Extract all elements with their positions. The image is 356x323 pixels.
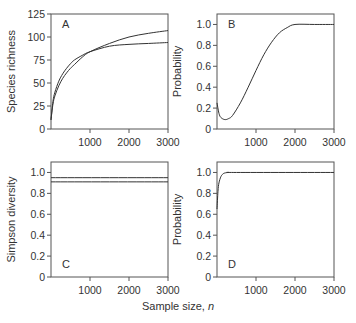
y-tick-label: 100 xyxy=(27,31,45,43)
y-tick-label: 0 xyxy=(205,123,211,135)
y-tick-label: 0.4 xyxy=(196,81,211,93)
y-tick-label: 0.8 xyxy=(196,39,211,51)
x-tick-label: 2000 xyxy=(117,284,141,296)
y-tick-label: 0.2 xyxy=(196,250,211,262)
y-tick-label: 1.0 xyxy=(30,166,45,178)
series-line xyxy=(217,24,334,119)
y-tick-label: 0.4 xyxy=(196,229,211,241)
x-tick-label: 1000 xyxy=(244,284,268,296)
y-tick-label: 0 xyxy=(205,271,211,283)
panel-d: 00.20.40.60.81.0100020003000ProbabilityD xyxy=(171,162,346,296)
y-axis-title: Probability xyxy=(171,193,183,245)
y-tick-label: 0.8 xyxy=(196,187,211,199)
series-line xyxy=(51,31,168,120)
x-axis-title-var: n xyxy=(208,300,214,312)
y-tick-label: 1.0 xyxy=(196,166,211,178)
x-tick-label: 1000 xyxy=(78,136,102,148)
x-tick-label: 1000 xyxy=(78,284,102,296)
panel-letter: A xyxy=(62,18,70,30)
y-tick-label: 0 xyxy=(39,123,45,135)
panel-b: 00.20.40.60.81.0100020003000ProbabilityB xyxy=(171,14,346,148)
x-tick-label: 2000 xyxy=(117,136,141,148)
series-line xyxy=(217,172,334,209)
y-axis-title: Simpson diversity xyxy=(5,176,17,263)
x-tick-label: 3000 xyxy=(322,136,346,148)
y-axis-title: Species richness xyxy=(5,29,17,113)
x-axis-title-text: Sample size, xyxy=(142,300,208,312)
x-tick-label: 2000 xyxy=(283,136,307,148)
y-tick-label: 0 xyxy=(39,271,45,283)
y-tick-label: 125 xyxy=(27,8,45,20)
y-axis-title: Probability xyxy=(171,45,183,97)
x-tick-label: 3000 xyxy=(322,284,346,296)
y-tick-label: 0.8 xyxy=(30,187,45,199)
series-line xyxy=(51,43,168,120)
x-tick-label: 2000 xyxy=(283,284,307,296)
y-tick-label: 0.2 xyxy=(30,250,45,262)
y-tick-label: 0.6 xyxy=(30,208,45,220)
y-tick-label: 0.6 xyxy=(196,208,211,220)
x-tick-label: 3000 xyxy=(156,136,180,148)
y-tick-label: 75 xyxy=(33,54,45,66)
panel-c: 00.20.40.60.81.0100020003000Simpson dive… xyxy=(5,162,180,296)
y-tick-label: 0.6 xyxy=(196,60,211,72)
y-tick-label: 0.2 xyxy=(196,102,211,114)
x-tick-label: 1000 xyxy=(244,136,268,148)
figure: 0255075100125100020003000Species richnes… xyxy=(0,0,356,323)
panel-letter: D xyxy=(228,258,236,270)
y-tick-label: 0.4 xyxy=(30,229,45,241)
y-tick-label: 1.0 xyxy=(196,18,211,30)
x-axis-title: Sample size, n xyxy=(0,300,356,312)
x-tick-label: 3000 xyxy=(156,284,180,296)
panel-a: 0255075100125100020003000Species richnes… xyxy=(5,8,180,149)
y-tick-label: 50 xyxy=(33,77,45,89)
plot-frame xyxy=(51,14,168,129)
y-tick-label: 25 xyxy=(33,100,45,112)
panel-letter: B xyxy=(228,18,235,30)
panel-letter: C xyxy=(62,258,70,270)
